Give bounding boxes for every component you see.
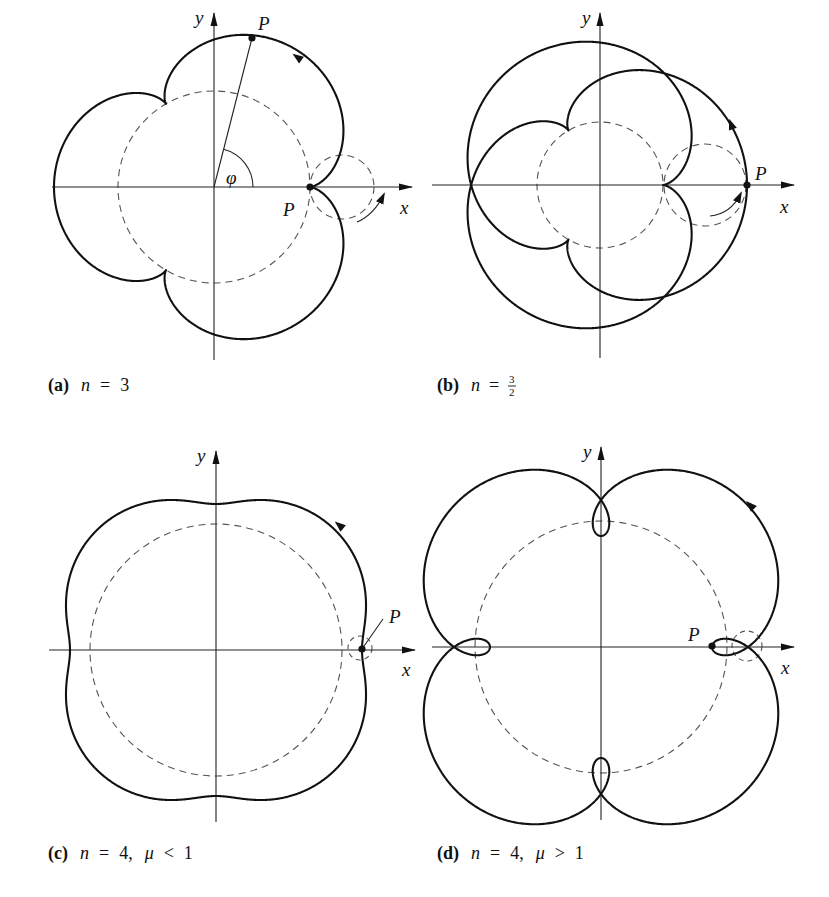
panel-c: P x y (c) n = 4, μ < 1 <box>48 445 415 864</box>
caption-n: n <box>80 843 89 863</box>
caption-eq: = <box>100 375 110 395</box>
caption-value: 4, <box>119 843 133 863</box>
caption-c: (c) n = 4, μ < 1 <box>48 843 193 864</box>
caption-rhs: 1 <box>184 843 193 863</box>
rotation-arrow <box>710 193 741 216</box>
point-p <box>708 642 715 649</box>
caption-b: (b) n = 3 2 <box>437 373 516 398</box>
direction-arrow-icon <box>292 54 303 64</box>
caption-eq: = <box>99 843 109 863</box>
caption-tag: (d) <box>437 843 459 864</box>
point-p-top <box>248 34 255 41</box>
point-p <box>358 645 365 652</box>
y-axis-label: y <box>193 7 204 28</box>
point-p-cusp <box>306 183 313 190</box>
caption-eq: = <box>490 843 500 863</box>
point-p-label: P <box>388 606 401 627</box>
panel-d: P x y (d) n = 4, μ > 1 <box>424 441 794 864</box>
caption-n: n <box>81 375 90 395</box>
caption-eq: = <box>489 375 499 395</box>
caption-n: n <box>471 375 480 395</box>
caption-rhs: 1 <box>575 843 584 863</box>
caption-fraction-numerator: 3 <box>509 373 515 385</box>
caption-relation: < <box>164 843 174 863</box>
x-axis-label: x <box>401 659 411 680</box>
epicycloid-figure: P P φ x y (a) n = 3 P x y (b) n = 3 2 <box>0 0 829 897</box>
point-p-label: P <box>687 624 700 645</box>
caption-value: 4, <box>510 843 524 863</box>
caption-mu: μ <box>144 843 154 863</box>
caption-d: (d) n = 4, μ > 1 <box>437 843 584 864</box>
x-axis-label: x <box>779 196 789 217</box>
caption-tag: (a) <box>48 375 69 396</box>
caption-mu: μ <box>535 843 545 863</box>
direction-arrow-icon <box>729 119 737 131</box>
y-axis-label: y <box>581 441 592 462</box>
caption-relation: > <box>555 843 565 863</box>
point-p-label: P <box>282 199 295 220</box>
x-axis-label: x <box>780 657 790 678</box>
panel-b: P x y (b) n = 3 2 <box>432 7 794 398</box>
rotation-arrow <box>357 194 384 222</box>
caption-n: n <box>471 843 480 863</box>
point-p <box>743 181 750 188</box>
caption-tag: (c) <box>48 843 68 864</box>
caption-tag: (b) <box>437 375 459 396</box>
point-p-label: P <box>754 163 767 184</box>
panel-a: P P φ x y (a) n = 3 <box>48 7 412 396</box>
y-axis-label: y <box>195 445 206 466</box>
caption-value: 3 <box>120 375 129 395</box>
x-axis-label: x <box>399 197 409 218</box>
point-p-label: P <box>257 13 270 34</box>
y-axis-label: y <box>580 7 591 28</box>
caption-a: (a) n = 3 <box>48 375 129 396</box>
angle-phi-label: φ <box>226 167 237 188</box>
caption-fraction-denominator: 2 <box>509 386 515 398</box>
